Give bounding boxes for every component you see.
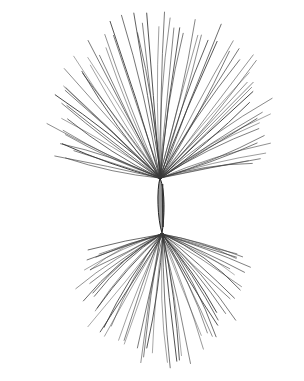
seed-shading [163, 184, 164, 227]
illustration-svg [0, 0, 304, 381]
hair-strand [100, 234, 163, 332]
upper-hair-tuft [47, 12, 272, 178]
seed-body [158, 178, 164, 233]
hair-strand [100, 55, 159, 178]
hair-strand [160, 129, 259, 178]
hair-strand [161, 55, 253, 178]
lower-hair-tuft [76, 234, 251, 368]
hair-strand [160, 49, 239, 178]
hair-strand [90, 234, 160, 270]
seed-illustration [0, 0, 304, 381]
